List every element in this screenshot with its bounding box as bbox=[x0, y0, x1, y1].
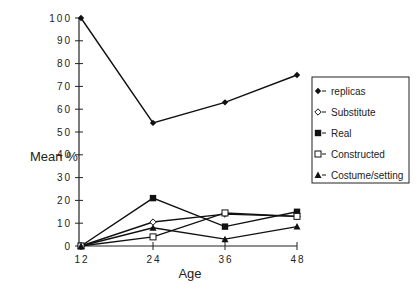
line-chart: 0102030405060708090100 12243648 Mean % A… bbox=[0, 0, 417, 294]
x-tick-label: 24 bbox=[146, 254, 161, 265]
legend-label: Constructed bbox=[331, 149, 385, 160]
legend-label: Real bbox=[331, 128, 352, 139]
x-tick-label: 12 bbox=[74, 254, 89, 265]
markers-real bbox=[78, 195, 300, 249]
y-tick-label: 30 bbox=[57, 172, 72, 183]
series-layer bbox=[78, 15, 301, 249]
y-tick-label: 20 bbox=[57, 195, 72, 206]
y-axis-title: Mean % bbox=[30, 149, 78, 164]
y-tick-label: 0 bbox=[64, 241, 72, 252]
legend-label: Costume/setting bbox=[331, 170, 403, 181]
x-axis-title: Age bbox=[178, 266, 201, 281]
x-axis: 12243648 bbox=[74, 242, 305, 265]
x-tick-label: 48 bbox=[290, 254, 305, 265]
markers-replicas bbox=[78, 15, 300, 126]
x-tick-label: 36 bbox=[218, 254, 233, 265]
series-replicas bbox=[81, 18, 297, 123]
series-real bbox=[81, 198, 297, 246]
y-tick-label: 90 bbox=[57, 35, 72, 46]
markers-substitute bbox=[78, 211, 300, 249]
y-tick-label: 10 bbox=[57, 218, 72, 229]
y-tick-label: 50 bbox=[57, 127, 72, 138]
series-costume-setting bbox=[81, 227, 297, 246]
legend-label: Substitute bbox=[331, 107, 376, 118]
y-tick-label: 80 bbox=[57, 58, 72, 69]
legend: replicasSubstituteRealConstructedCostume… bbox=[312, 77, 409, 183]
legend-label: replicas bbox=[331, 86, 365, 97]
y-tick-label: 70 bbox=[57, 81, 72, 92]
y-tick-label: 60 bbox=[57, 104, 72, 115]
y-axis: 0102030405060708090100 bbox=[49, 13, 83, 252]
y-tick-label: 100 bbox=[49, 13, 72, 24]
